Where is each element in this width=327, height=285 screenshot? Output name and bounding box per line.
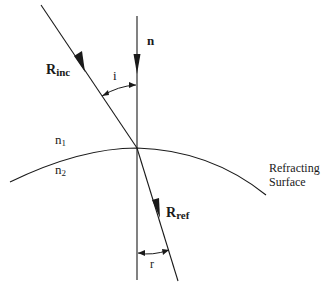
angle-r-arrow-left-icon: [138, 250, 145, 256]
diagram-canvas: n Rinc i n1 n2 Refracting Surface Rref r: [0, 0, 327, 285]
refracted-arrowhead-icon: [152, 198, 160, 218]
medium-1-label-sub: 1: [62, 138, 67, 148]
medium-1-label: n1: [55, 132, 66, 148]
refraction-diagram: n Rinc i n1 n2 Refracting Surface Rref r: [0, 0, 327, 285]
refracted-ray-label: Rref: [166, 205, 190, 221]
refracting-surface-curve: [10, 148, 266, 195]
incident-ray-label-sub: inc: [56, 66, 70, 78]
angle-r-label: r: [150, 257, 154, 271]
incident-arrowhead-icon: [74, 51, 85, 72]
normal-label: n: [147, 33, 155, 48]
angle-i-arrow-right-icon: [129, 82, 136, 88]
refracted-ray-label-sub: ref: [176, 209, 190, 221]
normal-arrowhead-icon: [134, 54, 141, 74]
medium-2-label-sub: 2: [62, 168, 67, 178]
angle-r-arrow-right-icon: [162, 249, 169, 255]
medium-2-label: n2: [55, 162, 66, 178]
surface-label-line2: Surface: [269, 175, 306, 189]
surface-label-line1: Refracting: [269, 161, 320, 175]
angle-i-arrow-left-icon: [102, 90, 109, 96]
incident-ray-label: Rinc: [46, 62, 70, 78]
angle-i-label: i: [113, 68, 117, 83]
